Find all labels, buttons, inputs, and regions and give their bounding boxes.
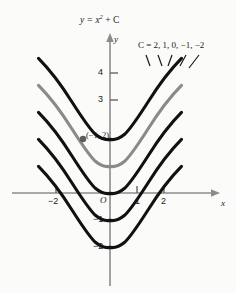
y-axis-label: y (114, 35, 118, 44)
title-equation: y = x2 + C (80, 14, 119, 26)
y-tick-label-minus-2: −2 (93, 242, 103, 251)
y-tick-label-3: 3 (98, 95, 103, 104)
origin-label: O (100, 196, 107, 205)
parabola-family-figure: y = x2 + C y x C = 2, 1, 0, −1, −2 (−1, … (0, 0, 236, 293)
x-tick-label-2: 2 (161, 197, 166, 206)
x-tick-label-minus-2: −2 (48, 197, 58, 206)
series-c-values-label: C = 2, 1, 0, −1, −2 (138, 41, 204, 50)
y-tick-label-minus-1: −1 (93, 215, 103, 224)
x-axis-label: x (221, 199, 225, 208)
y-tick-label-4: 4 (98, 68, 103, 77)
point-annotation-label: (−1, 2) (86, 131, 109, 140)
title-equation-main: y = x (80, 15, 100, 25)
x-tick-label-1: 1 (135, 197, 140, 206)
title-equation-tail: + C (103, 15, 119, 25)
